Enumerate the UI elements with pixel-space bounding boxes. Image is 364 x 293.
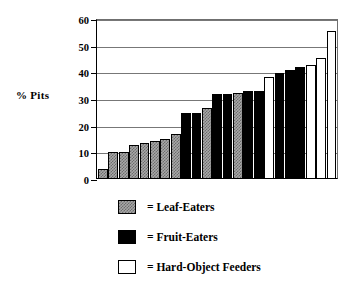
bar bbox=[98, 169, 108, 178]
bar bbox=[306, 65, 316, 178]
bar-chart-figure: % Pits 0102030405060 = Leaf-Eaters= Frui… bbox=[0, 0, 364, 293]
bar bbox=[202, 108, 212, 178]
y-axis-label: % Pits bbox=[16, 89, 49, 101]
bar bbox=[108, 152, 118, 178]
bar bbox=[254, 91, 264, 178]
bar bbox=[233, 93, 243, 178]
bar bbox=[160, 139, 170, 178]
legend-item-leaf: = Leaf-Eaters bbox=[118, 192, 358, 222]
bar bbox=[150, 141, 160, 178]
bar bbox=[316, 58, 326, 178]
legend-label-leaf: = Leaf-Eaters bbox=[147, 201, 215, 213]
legend-swatch-hard bbox=[118, 260, 136, 274]
bar bbox=[129, 145, 139, 178]
legend-swatch-leaf bbox=[118, 200, 136, 214]
legend-item-hard: = Hard-Object Feeders bbox=[118, 252, 358, 282]
y-axis-tick-label: 0 bbox=[84, 175, 89, 186]
y-axis-tick-label: 60 bbox=[79, 15, 90, 26]
y-axis-tick-label: 50 bbox=[79, 41, 90, 52]
bar bbox=[264, 77, 274, 178]
bar bbox=[192, 113, 202, 178]
bar bbox=[140, 143, 150, 178]
legend: = Leaf-Eaters= Fruit-Eaters= Hard-Object… bbox=[118, 192, 358, 282]
legend-label-fruit: = Fruit-Eaters bbox=[147, 231, 218, 243]
y-axis-tick-label: 20 bbox=[79, 121, 90, 132]
y-axis-tick-label: 10 bbox=[79, 148, 90, 159]
bar bbox=[223, 94, 233, 178]
bar bbox=[171, 134, 181, 178]
bar bbox=[285, 70, 295, 178]
legend-label-hard: = Hard-Object Feeders bbox=[147, 261, 261, 273]
bar bbox=[119, 152, 129, 178]
bar bbox=[295, 67, 305, 178]
legend-item-fruit: = Fruit-Eaters bbox=[118, 222, 358, 252]
bar bbox=[275, 73, 285, 178]
legend-swatch-fruit bbox=[118, 230, 136, 244]
y-axis-tick bbox=[91, 180, 97, 181]
y-axis-tick-label: 30 bbox=[79, 95, 90, 106]
plot-area: 0102030405060 bbox=[96, 19, 338, 179]
bar bbox=[243, 91, 253, 178]
bars-group bbox=[97, 20, 337, 178]
bar bbox=[327, 31, 337, 178]
bar bbox=[212, 94, 222, 178]
bar bbox=[181, 113, 191, 178]
y-axis-tick-label: 40 bbox=[79, 68, 90, 79]
